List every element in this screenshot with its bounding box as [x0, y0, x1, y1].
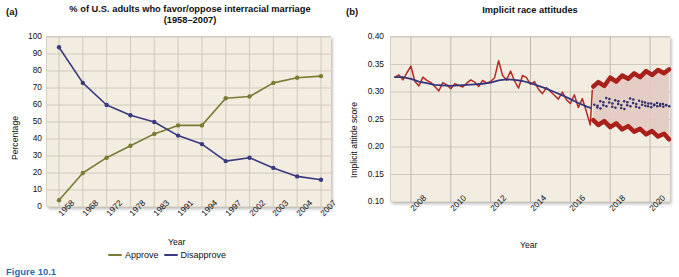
panel-b-letter: (b)	[346, 6, 358, 17]
y-tick-label: 60	[16, 99, 42, 109]
y-tick-label: 70	[16, 82, 42, 92]
figure-caption: Figure 10.1	[6, 266, 56, 277]
panel-b-y-axis-label: Implicit attitde score	[349, 102, 359, 178]
legend-item-disapprove: Disapprove	[164, 250, 227, 260]
y-tick-label: 20	[16, 167, 42, 177]
y-tick-label: 10	[16, 184, 42, 194]
panel-b: (b) Implicit race attitudes 0.100.150.20…	[340, 0, 679, 277]
y-tick-label: 0.10	[352, 196, 384, 206]
panel-a-letter: (a)	[6, 6, 18, 17]
panel-a-legend: Approve Disapprove	[108, 250, 226, 260]
panel-a-plot-area	[46, 36, 331, 207]
panel-b-chart-svg	[391, 37, 670, 202]
legend-item-approve: Approve	[108, 250, 159, 260]
panel-b-title: Implicit race attitudes	[430, 5, 630, 16]
legend-label-disapprove: Disapprove	[181, 250, 227, 260]
y-tick-label: 0	[16, 201, 42, 211]
figure-root: (a) % of U.S. adults who favor/oppose in…	[0, 0, 679, 277]
y-tick-label: 90	[16, 48, 42, 58]
y-tick-label: 0.30	[352, 86, 384, 96]
panel-a-y-axis-label: Percentage	[10, 116, 20, 160]
legend-swatch-approve	[108, 254, 122, 257]
legend-swatch-disapprove	[164, 254, 178, 257]
y-tick-label: 100	[16, 31, 42, 41]
y-tick-label: 0.35	[352, 59, 384, 69]
panel-b-plot-area	[390, 36, 670, 202]
panel-a: (a) % of U.S. adults who favor/oppose in…	[0, 0, 340, 277]
y-tick-label: 80	[16, 65, 42, 75]
panel-b-x-axis-label: Year	[520, 240, 537, 250]
panel-a-title: % of U.S. adults who favor/oppose interr…	[56, 4, 324, 26]
panel-a-chart-svg	[47, 37, 331, 207]
panel-a-x-axis-label: Year	[168, 237, 185, 247]
legend-label-approve: Approve	[125, 250, 159, 260]
y-tick-label: 0.40	[352, 31, 384, 41]
